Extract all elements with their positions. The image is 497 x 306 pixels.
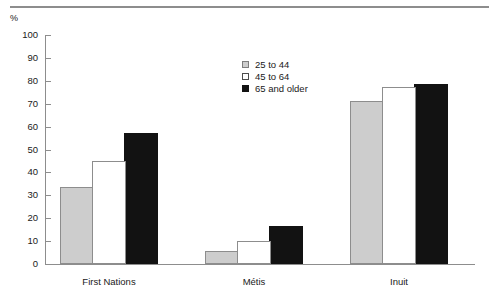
chart-legend: 25 to 4445 to 6465 and older [242,59,308,95]
y-axis-unit-label: % [10,13,18,23]
bar [60,187,94,264]
legend-item: 45 to 64 [242,71,308,83]
y-axis-tick-value: 90 [8,53,38,63]
y-axis-tick-value: 0 [8,259,38,269]
y-axis-tick-value: 10 [8,236,38,246]
legend-item-label: 45 to 64 [255,71,289,83]
legend-item-label: 25 to 44 [255,59,289,71]
y-axis-tick [46,58,51,59]
y-axis-tick [46,127,51,128]
bar [269,226,303,264]
legend-swatch-icon [242,61,249,68]
y-axis-tick-label: 50 [8,145,38,155]
x-axis-category-label: First Nations [59,277,159,287]
top-divider-rule [10,6,489,8]
y-axis-tick-label: 20 [8,213,38,223]
bar [382,87,416,264]
y-axis-tick [46,241,51,242]
legend-item: 65 and older [242,83,308,95]
legend-swatch-icon [242,73,249,80]
legend-swatch-icon [242,85,249,92]
x-axis-line [45,264,475,265]
y-axis-tick-label: 30 [8,190,38,200]
y-axis-tick [46,195,51,196]
bar-chart-figure: % 1009080706050403020100 First NationsMé… [0,0,497,306]
bar [414,84,448,264]
legend-item-label: 65 and older [255,83,308,95]
y-axis-tick-label: 40 [8,167,38,177]
bar [124,133,158,264]
y-axis-tick-value: 50 [8,145,38,155]
y-axis-tick [46,81,51,82]
y-axis-tick-label: 60 [8,122,38,132]
y-axis-tick-value: 60 [8,122,38,132]
y-axis-tick-value: 100 [8,30,38,40]
x-axis-category-label: Inuit [349,277,449,287]
y-axis-tick-label: 100 [8,30,38,40]
y-axis-tick-value: 70 [8,99,38,109]
y-axis-tick-value: 20 [8,213,38,223]
y-axis-tick [46,150,51,151]
bar [92,161,126,264]
y-axis-tick-label: 90 [8,53,38,63]
y-axis-tick-label: 80 [8,76,38,86]
y-axis-tick [46,172,51,173]
bar [237,241,271,264]
legend-item: 25 to 44 [242,59,308,71]
y-axis-tick [46,104,51,105]
y-axis-tick-value: 40 [8,167,38,177]
y-axis-tick [46,264,51,265]
bar [350,101,384,264]
y-axis-tick-label: 0 [8,259,38,269]
bar [205,251,239,264]
y-axis-tick-label: 70 [8,99,38,109]
y-axis-tick [46,218,51,219]
y-axis-tick-value: 80 [8,76,38,86]
y-axis-tick [46,35,51,36]
y-axis-tick-value: 30 [8,190,38,200]
x-axis-category-label: Métis [204,277,304,287]
y-axis-tick-label: 10 [8,236,38,246]
